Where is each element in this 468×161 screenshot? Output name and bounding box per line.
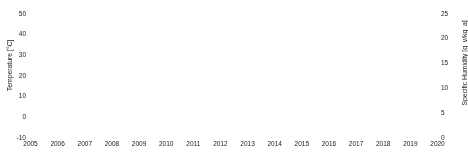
x-tick-2014: 2014 [260,140,290,147]
x-tick-2018: 2018 [368,140,398,147]
x-tick-2012: 2012 [205,140,235,147]
y-left-tick-20: 20 [10,72,26,79]
y-right-tick-5: 5 [441,109,457,116]
x-tick-2016: 2016 [314,140,344,147]
temperature-humidity-timeseries-figure: Temperature [°C] Specific Humidity [g_v/… [0,0,468,161]
x-tick-2005: 2005 [16,140,46,147]
y-right-tick-20: 20 [441,34,457,41]
y-left-tick-30: 30 [10,51,26,58]
y-left-tick-0: 0 [10,113,26,120]
x-tick-2013: 2013 [233,140,263,147]
x-tick-2010: 2010 [151,140,181,147]
y-right-tick-25: 25 [441,10,457,17]
y-left-tick-10: 10 [10,92,26,99]
x-tick-2019: 2019 [395,140,425,147]
y-left-tick-40: 40 [10,30,26,37]
y-right-tick-15: 15 [441,59,457,66]
y-left-tick-50: 50 [10,10,26,17]
x-tick-2007: 2007 [70,140,100,147]
y-axis-right-title: Specific Humidity [g_v/kg_a] [461,26,468,106]
x-tick-2006: 2006 [43,140,73,147]
x-tick-2017: 2017 [341,140,371,147]
x-tick-2015: 2015 [287,140,317,147]
x-tick-2009: 2009 [124,140,154,147]
x-tick-2011: 2011 [178,140,208,147]
chart-plot-area [0,0,468,161]
x-tick-2008: 2008 [97,140,127,147]
x-tick-2020: 2020 [423,140,453,147]
y-right-tick-10: 10 [441,84,457,91]
